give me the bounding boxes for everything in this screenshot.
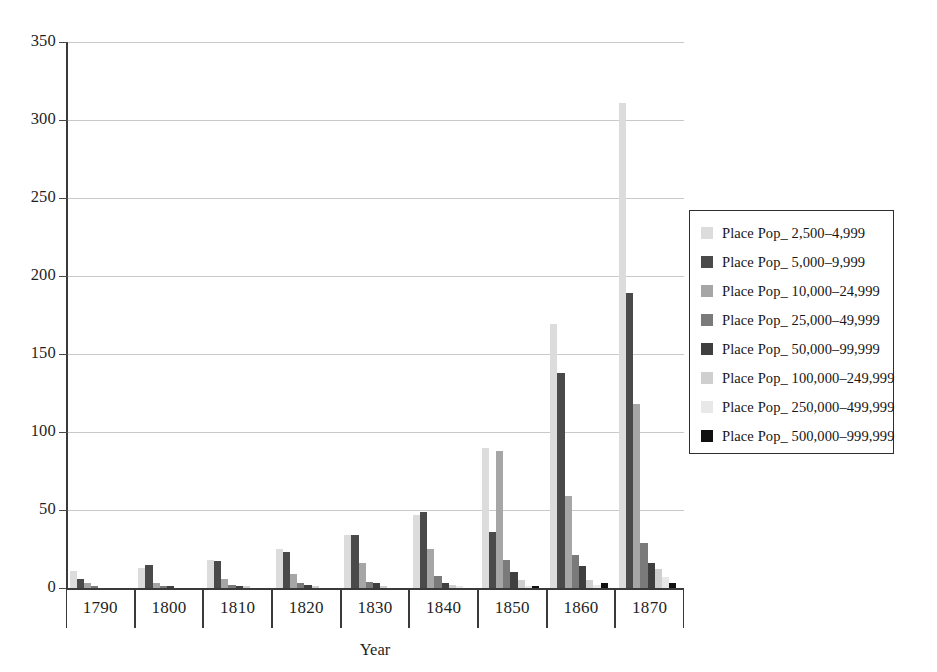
bar-group (550, 42, 608, 588)
bar (648, 563, 655, 588)
legend-item[interactable]: Place Pop_ 50,000–99,999 (701, 340, 880, 358)
bar (351, 535, 358, 588)
legend-label: Place Pop_ 10,000–24,999 (722, 283, 880, 300)
legend-swatch-icon (701, 372, 713, 384)
x-axis-band: 1840 (409, 590, 478, 628)
legend-item[interactable]: Place Pop_ 250,000–499,999 (701, 398, 895, 416)
bar (77, 579, 84, 588)
x-axis-band: 1830 (341, 590, 410, 628)
bar-group (207, 42, 265, 588)
bar-group (276, 42, 334, 588)
bar (640, 543, 647, 588)
x-axis-tick-label: 1800 (136, 598, 203, 618)
x-axis-tick-label: 1870 (616, 598, 683, 618)
y-axis-tick-label: 350 (31, 31, 56, 51)
bar (579, 566, 586, 588)
bar (496, 451, 503, 588)
bar (207, 560, 214, 588)
x-axis-band: 1790 (66, 590, 135, 628)
bar (138, 568, 145, 588)
bar (655, 569, 662, 588)
x-axis-tick-label: 1840 (410, 598, 477, 618)
x-axis-tick-label: 1850 (479, 598, 546, 618)
legend-label: Place Pop_ 250,000–499,999 (722, 399, 895, 416)
legend-swatch-icon (701, 314, 713, 326)
plot-area (66, 42, 684, 588)
bar (619, 103, 626, 588)
x-axis-tick-label: 1830 (342, 598, 409, 618)
legend-item[interactable]: Place Pop_ 100,000–249,999 (701, 369, 895, 387)
legend-swatch-icon (701, 343, 713, 355)
bar (489, 532, 496, 588)
x-axis-band: 1800 (135, 590, 204, 628)
legend-label: Place Pop_ 2,500–4,999 (722, 225, 865, 242)
legend-label: Place Pop_ 25,000–49,999 (722, 312, 880, 329)
legend-swatch-icon (701, 256, 713, 268)
bar (550, 324, 557, 588)
bar-group (70, 42, 128, 588)
bar (482, 448, 489, 588)
y-axis-tick-label: 0 (48, 577, 56, 597)
y-axis-tick-label: 200 (31, 265, 56, 285)
y-axis-tick-label: 150 (31, 343, 56, 363)
legend-label: Place Pop_ 100,000–249,999 (722, 370, 895, 387)
bar (510, 572, 517, 588)
bar (626, 293, 633, 588)
x-axis-band: 1810 (203, 590, 272, 628)
y-axis-tick-label: 50 (39, 499, 56, 519)
legend-label: Place Pop_ 5,000–9,999 (722, 254, 865, 271)
x-axis-band: 1820 (272, 590, 341, 628)
bar (586, 580, 593, 588)
legend-item[interactable]: Place Pop_ 500,000–999,999 (701, 427, 895, 445)
bar (70, 571, 77, 588)
chart-legend: Place Pop_ 2,500–4,999Place Pop_ 5,000–9… (689, 210, 894, 454)
bar (503, 560, 510, 588)
bar (359, 563, 366, 588)
bar (518, 580, 525, 588)
x-axis-band: 1870 (615, 590, 684, 628)
x-axis-title: Year (66, 640, 684, 660)
legend-swatch-icon (701, 401, 713, 413)
legend-item[interactable]: Place Pop_ 10,000–24,999 (701, 282, 880, 300)
bar-group (138, 42, 196, 588)
bar (221, 579, 228, 588)
bar (344, 535, 351, 588)
legend-swatch-icon (701, 430, 713, 442)
bar (434, 576, 441, 588)
bar (145, 565, 152, 588)
bar (214, 561, 221, 588)
legend-item[interactable]: Place Pop_ 25,000–49,999 (701, 311, 880, 329)
legend-item[interactable]: Place Pop_ 2,500–4,999 (701, 224, 865, 242)
bar (427, 549, 434, 588)
y-axis-tick-label: 300 (31, 109, 56, 129)
bar-group (344, 42, 402, 588)
x-axis-tick-label: 1790 (67, 598, 134, 618)
y-axis-tick-label: 100 (31, 421, 56, 441)
bar (572, 555, 579, 588)
legend-label: Place Pop_ 500,000–999,999 (722, 428, 895, 445)
bar-chart: 350300250200150100500 179018001810182018… (0, 0, 937, 672)
bar (276, 549, 283, 588)
bar (662, 577, 669, 588)
bar (290, 574, 297, 588)
bar (557, 373, 564, 588)
bar (633, 404, 640, 588)
bar (565, 496, 572, 588)
x-axis-band: 1860 (547, 590, 616, 628)
bar (420, 512, 427, 588)
x-axis-tick-label: 1810 (204, 598, 271, 618)
x-axis-tick-label: 1820 (273, 598, 340, 618)
bar (283, 552, 290, 588)
legend-swatch-icon (701, 227, 713, 239)
y-axis-tick-label: 250 (31, 187, 56, 207)
legend-swatch-icon (701, 285, 713, 297)
x-axis-band: 1850 (478, 590, 547, 628)
bar (413, 515, 420, 588)
legend-item[interactable]: Place Pop_ 5,000–9,999 (701, 253, 865, 271)
bar-group (482, 42, 540, 588)
legend-label: Place Pop_ 50,000–99,999 (722, 341, 880, 358)
x-axis-tick-label: 1860 (548, 598, 615, 618)
bar-group (619, 42, 677, 588)
bar-group (413, 42, 471, 588)
